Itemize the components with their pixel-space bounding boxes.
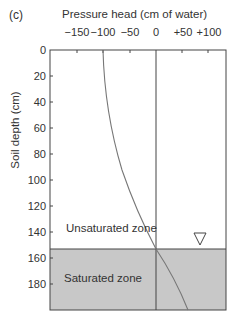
water-table-symbol-icon: [194, 233, 206, 245]
saturated-zone-label: Saturated zone: [64, 272, 142, 284]
unsaturated-zone-label: Unsaturated zone: [66, 222, 157, 234]
